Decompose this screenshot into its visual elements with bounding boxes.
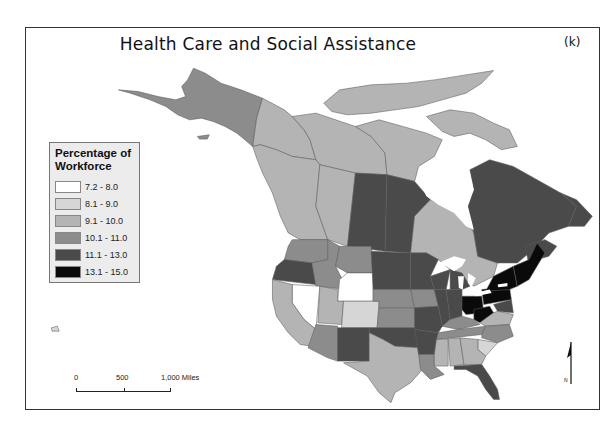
region-missouri: [415, 306, 443, 333]
scale-tick-500: 500: [116, 373, 129, 382]
legend-item: 13.1 - 15.0: [55, 263, 135, 280]
region-washington: [284, 240, 327, 263]
legend-label: 13.1 - 15.0: [85, 267, 128, 277]
svg-text:N: N: [564, 377, 568, 383]
legend-item: 11.1 - 13.0: [55, 246, 135, 263]
region-montana: [336, 246, 374, 273]
legend-swatch: [55, 181, 81, 193]
legend-item: 8.1 - 9.0: [55, 195, 135, 212]
legend-label: 8.1 - 9.0: [85, 199, 118, 209]
scale-tick-0: 0: [74, 373, 78, 382]
legend-swatch: [55, 266, 81, 278]
legend-item: 9.1 - 10.0: [55, 212, 135, 229]
region-quebec: [466, 160, 577, 263]
scale-line: [76, 388, 171, 392]
region-mississippi: [434, 339, 448, 366]
legend-label: 11.1 - 13.0: [85, 250, 127, 260]
region-alaska-islands: [197, 135, 209, 139]
scale-bar: 0 500 1,000 Miles: [74, 373, 174, 384]
region-north-carolina: [482, 325, 514, 343]
map-title: Health Care and Social Assistance: [0, 34, 616, 54]
region-kansas: [377, 308, 415, 328]
region-wyoming: [338, 273, 374, 301]
region-nebraska: [373, 290, 414, 308]
legend-swatch: [55, 198, 81, 210]
legend-label: 9.1 - 10.0: [85, 216, 123, 226]
scale-tick-1000: 1,000 Miles: [161, 373, 199, 382]
region-colorado: [342, 301, 380, 328]
legend-item: 10.1 - 11.0: [55, 229, 135, 246]
legend-swatch: [55, 249, 81, 261]
region-florida: [454, 364, 499, 399]
legend-label: 7.2 - 8.0: [85, 182, 118, 192]
legend-title: Percentage of Workforce: [55, 147, 135, 173]
legend-swatch: [55, 215, 81, 227]
legend: Percentage of Workforce 7.2 - 8.0 8.1 - …: [49, 142, 140, 283]
region-wisconsin: [430, 270, 450, 290]
region-arctic-islands: [324, 71, 494, 115]
legend-swatch: [55, 232, 81, 244]
region-dakotas: [371, 251, 410, 289]
region-alaska: [118, 68, 262, 146]
legend-label: 10.1 - 11.0: [85, 233, 127, 243]
region-oregon: [272, 260, 315, 285]
region-hawaii: [51, 326, 59, 331]
region-new-mexico: [338, 328, 370, 361]
panel-label: (k): [564, 35, 580, 49]
north-arrow-icon: N: [564, 340, 576, 386]
region-iowa: [411, 290, 439, 308]
legend-item: 7.2 - 8.0: [55, 178, 135, 195]
